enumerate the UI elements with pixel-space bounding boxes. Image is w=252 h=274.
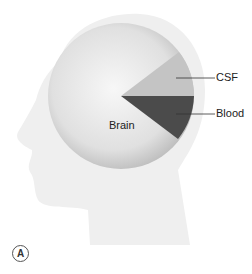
csf-label: CSF — [216, 71, 238, 83]
diagram — [0, 0, 252, 274]
blood-label: Blood — [216, 107, 244, 119]
brain-label: Brain — [109, 119, 135, 131]
panel-label: A — [12, 245, 29, 262]
